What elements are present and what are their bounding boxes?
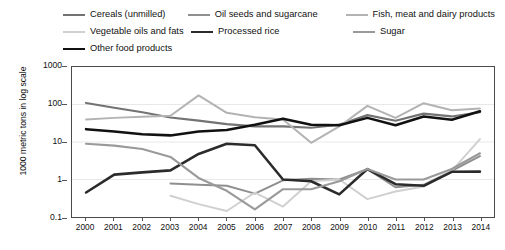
x-axis-tick-label: 2014: [464, 222, 498, 232]
series-line: [86, 103, 480, 128]
legend-swatch-line-icon: [63, 31, 85, 33]
chart-area: 1000 metric tons in log scale 1000100101…: [0, 56, 505, 250]
legend-item[interactable]: Cereals (unmilled): [63, 9, 178, 20]
legend-item[interactable]: Fish, meat and dairy products: [346, 9, 495, 20]
series-line: [86, 144, 480, 210]
y-axis-tick-mark: [62, 66, 67, 67]
plot-svg: [72, 67, 494, 217]
legend-swatch-line-icon: [63, 48, 85, 50]
legend-item[interactable]: Oil seeds and sugarcane: [188, 9, 336, 20]
x-axis-tick-mark: [113, 217, 114, 221]
legend-row: Vegetable oils and fatsProcessed riceSug…: [0, 24, 505, 39]
y-axis-tick-label: 0.1: [32, 213, 62, 221]
legend-item[interactable]: Other food products: [63, 43, 181, 54]
y-axis-tick-label: 100: [32, 99, 62, 107]
legend-row: Cereals (unmilled)Oil seeds and sugarcan…: [0, 7, 505, 22]
legend-item-label: Sugar: [380, 26, 405, 37]
y-axis-tick-mark: [62, 218, 67, 219]
y-axis-tick-mark: [62, 104, 67, 105]
x-axis-tick-mark: [85, 217, 86, 221]
y-axis-tick-label: 1: [32, 175, 62, 183]
x-axis-tick-mark: [283, 217, 284, 221]
legend-item-label: Fish, meat and dairy products: [373, 9, 495, 20]
y-axis-tick-mark: [62, 142, 67, 143]
x-axis-tick-mark: [340, 217, 341, 221]
y-axis-tick-label: 1000: [32, 61, 62, 69]
chart-legend: Cereals (unmilled)Oil seeds and sugarcan…: [0, 0, 505, 56]
y-axis-tick-label: 10: [32, 137, 62, 145]
legend-item[interactable]: Processed rice: [191, 26, 343, 37]
series-line: [86, 144, 480, 195]
legend-swatch-line-icon: [188, 14, 210, 16]
legend-item[interactable]: Sugar: [353, 26, 405, 37]
legend-swatch-line-icon: [191, 31, 213, 33]
y-axis-label: 1000 metric tons in log scale: [18, 46, 28, 196]
legend-row: Other food products: [0, 41, 505, 56]
legend-item-label: Oil seeds and sugarcane: [215, 9, 318, 20]
x-axis-tick-mark: [453, 217, 454, 221]
x-axis-tick-mark: [311, 217, 312, 221]
x-axis-tick-mark: [142, 217, 143, 221]
x-axis-tick-mark: [424, 217, 425, 221]
legend-swatch-line-icon: [353, 31, 375, 33]
y-axis-ticks: 10001001010.1: [28, 56, 62, 250]
plot-area: [71, 66, 495, 218]
x-axis-tick-mark: [198, 217, 199, 221]
x-axis-tick-mark: [396, 217, 397, 221]
x-axis-tick-mark: [226, 217, 227, 221]
legend-item-label: Processed rice: [218, 26, 280, 37]
legend-item[interactable]: Vegetable oils and fats: [63, 26, 181, 37]
x-axis-tick-mark: [170, 217, 171, 221]
y-axis-tick-mark: [62, 180, 67, 181]
legend-item-label: Vegetable oils and fats: [90, 26, 184, 37]
x-axis-tick-mark: [255, 217, 256, 221]
legend-swatch-line-icon: [63, 14, 85, 16]
legend-item-label: Other food products: [90, 43, 172, 54]
legend-swatch-line-icon: [346, 14, 368, 16]
x-axis-tick-mark: [368, 217, 369, 221]
legend-item-label: Cereals (unmilled): [90, 9, 165, 20]
x-axis-tick-mark: [481, 217, 482, 221]
